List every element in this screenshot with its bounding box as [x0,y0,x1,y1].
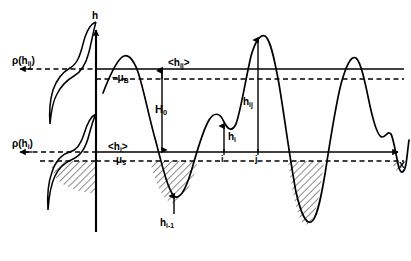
hatched-valley-2 [288,161,324,224]
rho-h-ij-curve [50,22,96,124]
hatched-gaussian-fill [50,161,96,194]
diagram-canvas [0,0,411,261]
height-profile-diagram: ρ(hij) ρ(hi) h x <hij> <hi> –μB μs H0 hi… [0,0,411,261]
H0-label: H0 [155,104,167,115]
mean-h-i-label: <hi> [108,142,128,152]
annotation-arrows [20,40,258,214]
rho-h-i-label: ρ(hi) [12,139,33,149]
h-ij-label: hij [243,97,253,107]
surface-profile-curve [103,36,409,223]
x-axis-label: x [399,160,405,170]
mean-h-ij-label: <hij> [168,58,190,68]
h-i-minus-1-label: hi-1 [160,218,174,228]
hatched-gaussian-region [50,161,96,194]
tick-i-label: i [221,155,224,164]
h-axis-label: h [92,11,98,21]
mu-s-label: μs [116,155,126,165]
tick-j-label: j [255,155,258,164]
h-i-label: hi [228,132,236,142]
rho-h-ij-label: ρ(hij) [12,56,35,66]
hatched-valley-regions [150,161,407,224]
mu-B-label: –μB [112,73,129,83]
